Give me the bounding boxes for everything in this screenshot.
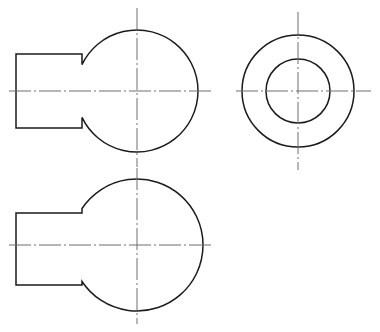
front-view bbox=[9, 8, 212, 167]
drawing-sheet bbox=[0, 0, 380, 332]
technical-drawing-canvas bbox=[0, 0, 380, 332]
side-view bbox=[236, 12, 371, 170]
bottom-view bbox=[9, 168, 212, 324]
